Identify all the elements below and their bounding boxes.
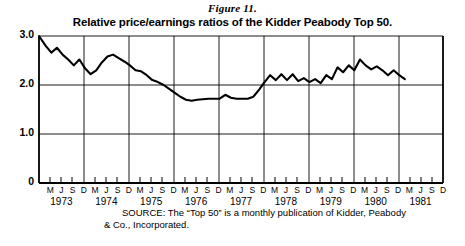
source-note-line2-wrap: & Co., Incorporated. (104, 219, 424, 231)
x-tick-label-1979-D: D (347, 185, 359, 195)
figure-title: Relative price/earnings ratios of the Ki… (0, 16, 465, 28)
grid-horizontal (39, 36, 443, 134)
x-tick-label-1980-S: S (381, 185, 393, 195)
x-tick-label-1979-S: S (336, 185, 348, 195)
x-axis-year-1980: 1980 (356, 196, 396, 207)
y-axis-label-2: 2.0 (4, 77, 34, 89)
x-tick-label-1979-M: M (314, 185, 326, 195)
x-axis-year-1981: 1981 (401, 196, 441, 207)
x-tick-label-1981-J: J (415, 185, 427, 195)
x-tick-label-1975-S: S (156, 185, 168, 195)
data-series-line (39, 36, 405, 101)
x-tick-label-1974-S: S (112, 185, 124, 195)
figure-number: Figure 11. (0, 2, 465, 14)
line-chart-svg (0, 30, 465, 190)
x-axis-year-1977: 1977 (221, 196, 261, 207)
x-tick-label-1978-J: J (280, 185, 292, 195)
x-tick-label-1974-J: J (100, 185, 112, 195)
figure-container: Figure 11. Relative price/earnings ratio… (0, 0, 465, 246)
x-axis-year-1975: 1975 (131, 196, 171, 207)
x-axis-year-1976: 1976 (176, 196, 216, 207)
x-tick-label-1978-D: D (302, 185, 314, 195)
source-note-line1: SOURCE: The “Top 50” is a monthly public… (122, 207, 406, 218)
x-tick-label-1973-M: M (44, 185, 56, 195)
x-tick-label-1981-D: D (437, 185, 449, 195)
x-tick-label-1975-M: M (134, 185, 146, 195)
x-tick-label-1977-S: S (246, 185, 258, 195)
x-tick-label-1976-M: M (179, 185, 191, 195)
x-tick-label-1980-J: J (370, 185, 382, 195)
x-tick-label-1974-D: D (123, 185, 135, 195)
source-note: SOURCE: The “Top 50” is a monthly public… (122, 207, 442, 219)
x-tick-label-1974-M: M (89, 185, 101, 195)
x-tick-label-1981-S: S (426, 185, 438, 195)
x-tick-label-1973-D: D (78, 185, 90, 195)
x-tick-label-1979-J: J (325, 185, 337, 195)
x-tick-label-1980-M: M (358, 185, 370, 195)
x-tick-label-1975-D: D (168, 185, 180, 195)
x-axis-year-1979: 1979 (311, 196, 351, 207)
axis-lines (39, 36, 443, 183)
x-axis-year-1973: 1973 (41, 196, 81, 207)
x-tick-label-1976-S: S (201, 185, 213, 195)
x-tick-label-1978-S: S (291, 185, 303, 195)
x-tick-label-1977-J: J (235, 185, 247, 195)
y-axis-label-3: 3.0 (4, 28, 34, 40)
x-tick-label-1980-D: D (392, 185, 404, 195)
x-axis-year-1974: 1974 (86, 196, 126, 207)
source-note-line2: & Co., Incorporated. (104, 219, 189, 230)
x-tick-label-1976-D: D (213, 185, 225, 195)
grid-vertical (84, 36, 399, 183)
x-tick-label-1975-J: J (145, 185, 157, 195)
x-tick-label-1978-M: M (269, 185, 281, 195)
x-tick-label-1981-M: M (403, 185, 415, 195)
x-tick-label-1973-S: S (67, 185, 79, 195)
x-tick-label-1977-D: D (257, 185, 269, 195)
x-tick-label-1976-J: J (190, 185, 202, 195)
x-tick-label-1977-M: M (224, 185, 236, 195)
x-axis-year-1978: 1978 (266, 196, 306, 207)
x-tick-label-1973-J: J (55, 185, 67, 195)
chart-plot-area: 3.0 2.0 1.0 0 (0, 30, 465, 190)
y-axis-label-1: 1.0 (4, 126, 34, 138)
